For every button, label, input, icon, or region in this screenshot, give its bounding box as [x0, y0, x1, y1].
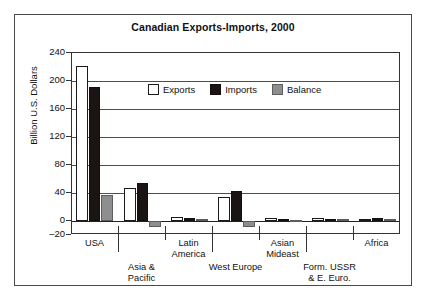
legend-item-balance: Balance [272, 84, 321, 95]
bar-exports [218, 197, 230, 221]
chart-title: Canadian Exports-Imports, 2000 [14, 21, 412, 33]
bar-imports [372, 218, 384, 221]
x-category-label: USA [53, 238, 136, 249]
bar-imports [231, 191, 243, 221]
bar-imports [89, 87, 101, 221]
bar-balance [243, 221, 255, 227]
bar-exports [359, 219, 371, 221]
bar-imports [278, 219, 290, 221]
bar-imports [184, 218, 196, 222]
legend-item-imports: Imports [210, 84, 257, 95]
plot-area [71, 52, 400, 234]
bar-balance [101, 195, 113, 221]
gridline [72, 109, 399, 110]
y-tick-label: 120 [31, 130, 65, 141]
legend-label: Balance [287, 84, 321, 95]
y-tick-label: 80 [31, 158, 65, 169]
gridline [72, 165, 399, 166]
bar-balance [290, 220, 302, 222]
x-category-label: Africa [335, 238, 418, 249]
legend-item-exports: Exports [148, 84, 195, 95]
x-category-label: Asian Mideast [241, 238, 324, 260]
chart-legend: ExportsImportsBalance [148, 84, 321, 95]
legend-label: Exports [163, 84, 195, 95]
x-category-label: West Europe [194, 262, 277, 273]
legend-swatch-balance-icon [272, 84, 283, 95]
bar-balance [384, 219, 396, 221]
bar-exports [124, 188, 136, 221]
x-category-label: Form. USSR & E. Euro. [288, 262, 371, 284]
legend-label: Imports [225, 84, 257, 95]
x-tick-mark [259, 228, 260, 234]
y-tick-label: 160 [31, 102, 65, 113]
bar-imports [325, 219, 337, 221]
x-tick-mark [306, 228, 307, 234]
bar-balance [149, 221, 161, 227]
y-tick-label: 200 [31, 74, 65, 85]
bar-exports [171, 217, 183, 221]
gridline [72, 81, 399, 82]
bar-balance [337, 219, 349, 221]
y-tick-label: 240 [31, 46, 65, 57]
x-tick-mark [165, 228, 166, 234]
legend-swatch-imports-icon [210, 84, 221, 95]
x-category-label: Asia & Pacific [100, 262, 183, 284]
y-tick-label: 0 [31, 214, 65, 225]
bar-imports [137, 183, 149, 222]
x-tick-mark [118, 228, 119, 234]
chart-figure: Canadian Exports-Imports, 2000 Billion U… [0, 0, 427, 302]
x-category-label: Latin America [147, 238, 230, 260]
x-tick-mark [353, 228, 354, 234]
x-tick-mark [212, 228, 213, 234]
bar-balance [196, 219, 208, 221]
y-tick-label: 40 [31, 186, 65, 197]
legend-swatch-exports-icon [148, 84, 159, 95]
bar-exports [76, 66, 88, 221]
bar-exports [312, 218, 324, 221]
bar-exports [265, 218, 277, 221]
gridline [72, 137, 399, 138]
